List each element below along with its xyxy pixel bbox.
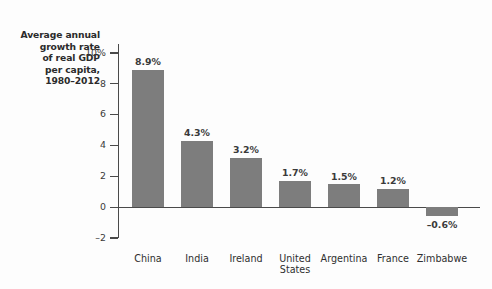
value-label-ireland: 3.2%: [216, 144, 276, 155]
y-axis-line: [118, 44, 119, 238]
bar-india[interactable]: [181, 141, 213, 207]
value-label-france: 1.2%: [363, 175, 423, 186]
y-tick-label-10: 10%: [85, 47, 106, 58]
y-tick-10: [110, 52, 118, 53]
y-tick-6: [110, 114, 118, 115]
y-tick-neg2: [110, 237, 118, 238]
category-label-line: States: [263, 264, 327, 275]
bar-ireland[interactable]: [230, 158, 262, 207]
y-tick-8: [110, 83, 118, 84]
y-tick-label-0: 0: [100, 201, 106, 212]
bar-argentina[interactable]: [328, 184, 360, 207]
y-tick-4: [110, 145, 118, 146]
y-tick-label-8: 8: [100, 78, 106, 89]
bar-zimbabwe[interactable]: [426, 207, 458, 216]
value-label-zimbabwe: –0.6%: [412, 219, 472, 230]
value-label-india: 4.3%: [167, 127, 227, 138]
y-tick-0: [110, 207, 118, 208]
y-axis-tick-labels: 10%86420–2: [78, 0, 106, 289]
bar-china[interactable]: [132, 70, 164, 207]
value-label-china: 8.9%: [118, 56, 178, 67]
y-tick-label-2: 2: [100, 170, 106, 181]
chart-figure: Average annual growth rate of real GDP p…: [0, 0, 492, 289]
bar-united-states[interactable]: [279, 181, 311, 207]
y-tick-2: [110, 176, 118, 177]
bar-france[interactable]: [377, 189, 409, 208]
category-label-zimbabwe: Zimbabwe: [410, 253, 474, 264]
y-tick-label-6: 6: [100, 108, 106, 119]
category-label-line: Zimbabwe: [410, 253, 474, 264]
y-tick-label-4: 4: [100, 139, 106, 150]
y-tick-label-neg2: –2: [95, 232, 106, 243]
